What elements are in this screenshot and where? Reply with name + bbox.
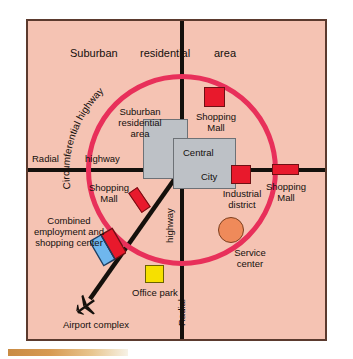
- suburban-top-label-1: Suburban: [70, 48, 118, 59]
- radial-label-horizontal: Radial: [32, 153, 59, 164]
- service-center-label-2: center: [224, 258, 276, 269]
- diagram-canvas: Circumferential highway Central City Sho…: [0, 0, 353, 359]
- combined-center-label-2: employment and: [26, 226, 112, 237]
- suburban-top-label-3: area: [214, 48, 236, 59]
- industrial-district-label-2: district: [214, 199, 270, 210]
- city-label: City: [201, 171, 217, 182]
- circumferential-highway-label: Circumferential highway: [60, 85, 105, 190]
- suburban-inner-label-3: area: [104, 128, 176, 139]
- shopping-mall-left-label-2: Mall: [80, 193, 138, 204]
- bottom-gradient-bar: [8, 349, 128, 356]
- highway-label-vertical: highway: [164, 208, 175, 243]
- combined-center-label-1: Combined: [32, 215, 106, 226]
- service-center-shape: [218, 217, 244, 243]
- suburban-top-label-2: residential: [140, 48, 190, 59]
- map-frame: Circumferential highway Central City Sho…: [26, 19, 327, 341]
- airport-complex-label: Airport complex: [54, 319, 138, 330]
- map-inner: Circumferential highway Central City Sho…: [28, 21, 325, 339]
- suburban-inner-label-1: Suburban: [104, 106, 176, 117]
- office-park-shape: [145, 265, 164, 283]
- shopping-mall-top-label-2: Mall: [188, 122, 244, 133]
- radial-label-vertical: Radial: [176, 299, 187, 326]
- shopping-mall-right-shape: [272, 164, 299, 175]
- combined-center-label-3: shopping center: [26, 237, 112, 248]
- office-park-label: Office park: [126, 287, 184, 298]
- airplane-icon: [73, 293, 99, 317]
- shopping-mall-top-shape: [204, 87, 225, 107]
- highway-label-horizontal: highway: [85, 153, 120, 164]
- service-center-label-1: Service: [224, 247, 276, 258]
- central-label: Central: [183, 147, 214, 158]
- industrial-district-shape: [231, 165, 251, 184]
- suburban-inner-label-2: residential: [104, 117, 176, 128]
- shopping-mall-top-label-1: Shopping: [188, 111, 244, 122]
- industrial-district-label-1: Industrial: [214, 188, 270, 199]
- shopping-mall-left-label-1: Shopping: [80, 182, 138, 193]
